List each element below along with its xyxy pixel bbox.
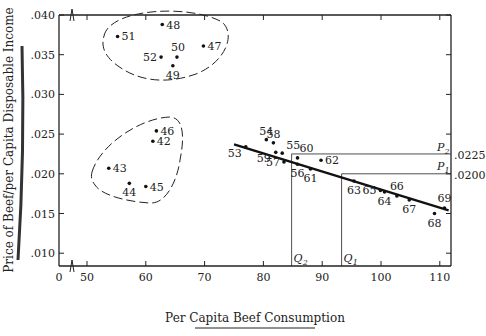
point-label: 48 bbox=[166, 19, 180, 32]
y-tick-label: .035 bbox=[31, 49, 56, 62]
data-point bbox=[116, 35, 120, 39]
point-label: 46 bbox=[160, 125, 174, 138]
point-label: 63 bbox=[347, 184, 361, 197]
point-label: 45 bbox=[150, 181, 164, 194]
point-label: 49 bbox=[166, 69, 180, 82]
q2-label: Q2 bbox=[294, 252, 308, 267]
data-point bbox=[244, 145, 248, 149]
q1-label: Q1 bbox=[344, 252, 358, 267]
point-label: 65 bbox=[362, 184, 376, 197]
y-tick-label: .025 bbox=[31, 128, 56, 141]
p2-value: .0225 bbox=[454, 149, 486, 162]
data-point bbox=[296, 156, 300, 160]
y-tick-label: .020 bbox=[31, 168, 56, 181]
point-label: 55 bbox=[286, 139, 300, 152]
point-label: 61 bbox=[303, 172, 317, 185]
data-point bbox=[155, 129, 159, 133]
point-label: 53 bbox=[228, 147, 242, 160]
point-label: 44 bbox=[122, 186, 136, 199]
data-point bbox=[274, 151, 278, 155]
data-point bbox=[171, 64, 175, 68]
data-point bbox=[383, 190, 387, 194]
x-axis-title: Per Capita Beef Consumption bbox=[165, 311, 345, 325]
data-point bbox=[272, 141, 276, 145]
y-tick-label: .015 bbox=[31, 208, 56, 221]
point-label: 62 bbox=[325, 154, 339, 167]
data-point bbox=[407, 198, 411, 202]
data-point bbox=[379, 189, 383, 193]
chart-canvas: 05060708090100110.010.015.020.025.030.03… bbox=[0, 0, 486, 336]
point-label: 69 bbox=[438, 192, 452, 205]
point-label: 60 bbox=[300, 142, 314, 155]
data-point bbox=[160, 23, 164, 27]
data-point bbox=[144, 185, 148, 189]
x-tick-label: 100 bbox=[371, 271, 392, 284]
data-point bbox=[202, 44, 206, 48]
data-point bbox=[280, 151, 284, 155]
x-tick-label: 60 bbox=[139, 271, 153, 284]
data-point bbox=[128, 182, 132, 186]
x-tick-label: 50 bbox=[80, 271, 94, 284]
x-tick-label: 0 bbox=[56, 271, 63, 284]
point-label: 51 bbox=[122, 30, 136, 43]
point-label: 52 bbox=[143, 51, 157, 64]
data-point bbox=[296, 162, 300, 166]
x-tick-label: 110 bbox=[429, 271, 450, 284]
x-tick-label: 70 bbox=[198, 271, 212, 284]
data-point bbox=[433, 212, 437, 216]
data-point bbox=[395, 194, 399, 198]
y-title-bar bbox=[18, 46, 23, 260]
x-tick-label: 90 bbox=[315, 271, 329, 284]
x-tick-label: 80 bbox=[256, 271, 270, 284]
y-tick-label: .030 bbox=[31, 88, 56, 101]
point-label: 47 bbox=[207, 40, 221, 53]
y-tick-label: .040 bbox=[31, 9, 56, 22]
point-label: 68 bbox=[428, 217, 442, 230]
p1-value: .0200 bbox=[454, 169, 486, 182]
point-label: 43 bbox=[113, 162, 127, 175]
data-point bbox=[175, 55, 179, 59]
point-label: 67 bbox=[402, 203, 416, 216]
point-label: 50 bbox=[171, 41, 185, 54]
point-label: 56 bbox=[291, 167, 305, 180]
plot-frame bbox=[59, 9, 451, 272]
data-point bbox=[159, 55, 163, 59]
data-point bbox=[309, 167, 313, 171]
point-label: 59 bbox=[257, 152, 271, 165]
y-tick-label: .010 bbox=[31, 247, 56, 260]
point-label: 64 bbox=[378, 195, 392, 208]
data-point bbox=[352, 179, 356, 183]
y-axis-title: Price of Beef/per Capita Disposable Inco… bbox=[2, 7, 16, 272]
data-point bbox=[282, 160, 286, 164]
data-points: 4243444546474849505152535455565758596061… bbox=[107, 19, 452, 230]
p2-label: P2 bbox=[436, 141, 450, 156]
point-label: 66 bbox=[390, 180, 404, 193]
p1-label: P1 bbox=[436, 160, 450, 175]
point-label: 58 bbox=[266, 128, 280, 141]
pq-guide-lines bbox=[292, 154, 451, 266]
data-point bbox=[107, 166, 111, 170]
data-point bbox=[151, 139, 155, 143]
data-point bbox=[443, 206, 447, 210]
data-point bbox=[319, 159, 323, 163]
